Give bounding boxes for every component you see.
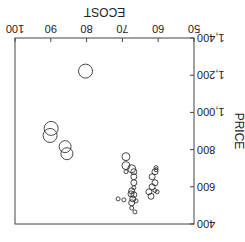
x-tick-label: 60 [152, 23, 164, 35]
plot-frame [15, 38, 194, 224]
bubble [149, 184, 155, 190]
x-tick-label: 90 [45, 23, 57, 35]
y-tick-label: 1,400 [197, 32, 225, 44]
y-tick-label: 400 [197, 218, 215, 230]
bubble [131, 180, 137, 186]
bubble [116, 197, 120, 201]
y-tick-label: 600 [197, 181, 215, 193]
bubble [79, 64, 93, 78]
y-tick-label: 1,000 [197, 106, 225, 118]
bubble [122, 198, 126, 202]
y-axis-label: PRICE [232, 113, 245, 150]
bubble [122, 153, 130, 161]
bubble [152, 180, 158, 186]
x-axis-label: ECOST [83, 5, 125, 19]
x-tick-label: 80 [80, 23, 92, 35]
bubble [130, 206, 134, 210]
y-tick-label: 800 [197, 144, 215, 156]
bubble [133, 210, 137, 214]
bubble-chart: 50607080901004006008001,0001,2001,400ECO… [0, 0, 245, 242]
bubble [59, 141, 71, 153]
bubble [61, 148, 73, 160]
rotated-chart: 50607080901004006008001,0001,2001,400ECO… [0, 0, 245, 242]
x-tick-label: 70 [116, 23, 128, 35]
x-tick-label: 100 [6, 23, 24, 35]
bubble [124, 170, 128, 174]
y-tick-label: 1,200 [197, 69, 225, 81]
